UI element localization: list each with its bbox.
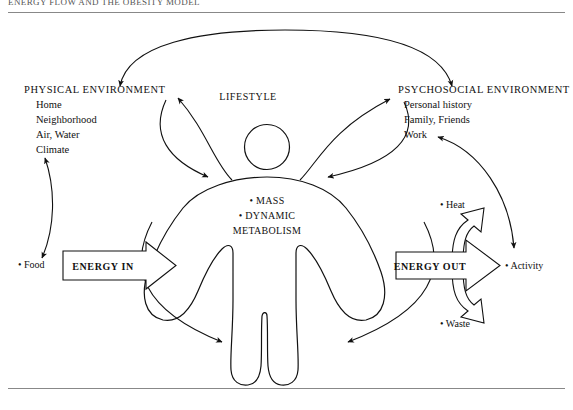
activity-label: • Activity bbox=[505, 260, 543, 271]
heat-label: • Heat bbox=[440, 199, 465, 210]
arrow-lifestyle-to-physical-environment bbox=[178, 98, 232, 180]
psychosocial-environment-item-personal-history: Personal history bbox=[404, 99, 473, 110]
environments-link-arc bbox=[120, 30, 452, 86]
arrow-lifestyle-to-psychosocial-environment bbox=[300, 99, 390, 180]
energy-flow-diagram: LIFESTYLE PHYSICAL ENVIRONMENT Home Neig… bbox=[0, 0, 573, 410]
arrow-psychosocial-environment-to-body bbox=[328, 102, 409, 177]
energy-out-arrow: ENERGY OUT bbox=[394, 208, 500, 323]
physical-environment-heading: PHYSICAL ENVIRONMENT bbox=[24, 84, 166, 95]
human-body-figure bbox=[144, 125, 384, 386]
waste-label: • Waste bbox=[440, 318, 471, 329]
body-core-dynamic: • DYNAMIC bbox=[239, 210, 296, 221]
lifestyle-label: LIFESTYLE bbox=[219, 91, 277, 102]
physical-environment-item-air-water: Air, Water bbox=[36, 129, 80, 140]
food-label: • Food bbox=[18, 259, 45, 270]
psychosocial-environment-item-family-friends: Family, Friends bbox=[404, 114, 470, 125]
energy-out-label: ENERGY OUT bbox=[394, 261, 467, 272]
physical-environment-item-climate: Climate bbox=[36, 144, 70, 155]
physical-environment-item-home: Home bbox=[36, 99, 62, 110]
physical-environment-item-neighborhood: Neighborhood bbox=[36, 114, 97, 125]
arrow-food-climate bbox=[42, 158, 53, 258]
arrow-activity-work bbox=[438, 137, 514, 248]
physical-environment-group: PHYSICAL ENVIRONMENT Home Neighborhood A… bbox=[24, 84, 166, 155]
energy-in-label: ENERGY IN bbox=[72, 261, 134, 272]
figure-torso-limbs bbox=[144, 177, 384, 385]
body-core-mass: • MASS bbox=[249, 195, 284, 206]
psychosocial-environment-group: PSYCHOSOCIAL ENVIRONMENT Personal histor… bbox=[398, 84, 570, 140]
arrow-physical-environment-to-body bbox=[160, 100, 208, 177]
figure-head bbox=[245, 125, 290, 170]
psychosocial-environment-heading: PSYCHOSOCIAL ENVIRONMENT bbox=[398, 84, 570, 95]
body-core-metabolism: METABOLISM bbox=[233, 225, 301, 236]
